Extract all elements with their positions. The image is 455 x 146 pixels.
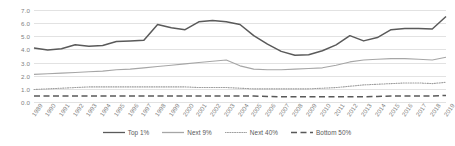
legend-swatch-solid-icon xyxy=(162,129,184,136)
x-axis-tick-label: 2006 xyxy=(263,102,277,117)
x-axis-tick-label: 1999 xyxy=(167,102,181,117)
y-axis-tick-label: 1.0 xyxy=(21,85,30,92)
x-axis-tick-label: 2008 xyxy=(290,102,304,117)
legend-label: Next 40% xyxy=(250,129,278,136)
series-line xyxy=(34,82,446,89)
x-axis-tick-label: 1997 xyxy=(139,102,153,117)
series-line xyxy=(34,57,446,74)
x-axis: 1989199019911992199319941995199619971998… xyxy=(34,102,446,132)
y-axis-tick-label: 0.0 xyxy=(21,99,30,106)
x-axis-tick-label: 1989 xyxy=(29,102,43,117)
y-axis-tick-label: 6.0 xyxy=(21,20,30,27)
legend-swatch-dashed-icon xyxy=(291,129,313,136)
legend-label: Bottom 50% xyxy=(316,129,351,136)
legend-label: Top 1% xyxy=(128,129,150,136)
x-axis-tick-label: 2001 xyxy=(194,102,208,117)
x-axis-tick-label: 2017 xyxy=(414,102,428,117)
y-axis-tick-label: 5.0 xyxy=(21,33,30,40)
x-axis-tick-label: 2019 xyxy=(441,102,455,117)
x-axis-tick-label: 1998 xyxy=(153,102,167,117)
x-axis-tick-label: 1991 xyxy=(57,102,71,117)
series-line xyxy=(34,95,446,96)
x-axis-tick-label: 2010 xyxy=(318,102,332,117)
x-axis-tick-label: 2016 xyxy=(400,102,414,117)
legend-item[interactable]: Bottom 50% xyxy=(291,129,351,136)
x-axis-tick-label: 1995 xyxy=(112,102,126,117)
x-axis-tick-label: 2014 xyxy=(373,102,387,117)
x-axis-tick-label: 2015 xyxy=(387,102,401,117)
chart-legend: Top 1%Next 9%Next 40%Bottom 50% xyxy=(0,129,454,136)
x-axis-tick-label: 2005 xyxy=(249,102,263,117)
y-axis-tick-label: 7.0 xyxy=(21,7,30,14)
x-axis-tick-label: 1993 xyxy=(84,102,98,117)
x-axis-tick-label: 1990 xyxy=(43,102,57,117)
x-axis-tick-label: 2009 xyxy=(304,102,318,117)
x-axis-tick-label: 2007 xyxy=(277,102,291,117)
y-axis-tick-label: 4.0 xyxy=(21,46,30,53)
legend-swatch-solid-icon xyxy=(103,129,125,136)
x-axis-tick-label: 1992 xyxy=(71,102,85,117)
legend-label: Next 9% xyxy=(187,129,212,136)
x-axis-tick-label: 2018 xyxy=(428,102,442,117)
x-axis-tick-label: 2013 xyxy=(359,102,373,117)
series-line xyxy=(34,17,446,56)
y-axis-tick-label: 3.0 xyxy=(21,59,30,66)
legend-swatch-dotted-icon xyxy=(225,129,247,136)
x-axis-tick-label: 1994 xyxy=(98,102,112,117)
legend-item[interactable]: Next 40% xyxy=(225,129,278,136)
legend-item[interactable]: Top 1% xyxy=(103,129,150,136)
x-axis-tick-label: 2000 xyxy=(181,102,195,117)
x-axis-tick-label: 2002 xyxy=(208,102,222,117)
x-axis-tick-label: 1996 xyxy=(126,102,140,117)
x-axis-tick-label: 2003 xyxy=(222,102,236,117)
series-layer xyxy=(34,10,446,102)
x-axis-tick-label: 2012 xyxy=(345,102,359,117)
y-axis-tick-label: 2.0 xyxy=(21,72,30,79)
x-axis-tick-label: 2011 xyxy=(332,102,345,117)
legend-item[interactable]: Next 9% xyxy=(162,129,212,136)
x-axis-tick-label: 2004 xyxy=(235,102,249,117)
plot-area: 0.01.02.03.04.05.06.07.0 xyxy=(34,10,446,102)
